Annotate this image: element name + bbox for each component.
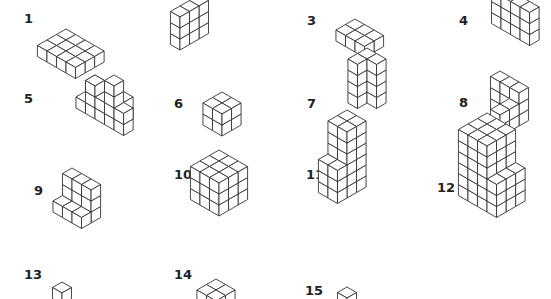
cube-figure-6 <box>222 114 223 115</box>
figure-label: 9 <box>34 184 43 197</box>
figure-label: 12 <box>437 181 455 194</box>
cube-figure-10 <box>219 183 220 184</box>
figure-label: 7 <box>307 97 316 110</box>
figure-label: 8 <box>459 96 468 109</box>
cube-figure-12 <box>487 179 488 180</box>
figure-label: 14 <box>174 268 192 281</box>
cube-figure-4 <box>501 18 502 19</box>
cube-figure-9 <box>72 201 73 202</box>
cube-figure-8 <box>500 104 501 105</box>
cube-figure-13 <box>62 293 63 294</box>
cube-figure-11 <box>347 176 348 177</box>
figure-label: 10 <box>174 168 192 181</box>
figure-label: 4 <box>459 14 468 27</box>
figure-label: 1 <box>24 12 33 25</box>
cube-figure-3 <box>355 30 356 31</box>
figure-label: 15 <box>305 284 323 297</box>
cube-figure-5 <box>95 97 96 98</box>
cube-figure-1 <box>66 40 67 41</box>
cube-figure-7 <box>367 92 368 93</box>
figure-label: 5 <box>24 92 33 105</box>
cube-figure-2 <box>199 28 200 29</box>
cube-figure-14 <box>216 290 217 291</box>
figure-label: 13 <box>24 268 42 281</box>
figure-label: 6 <box>174 97 183 110</box>
figure-label: 3 <box>307 14 316 27</box>
